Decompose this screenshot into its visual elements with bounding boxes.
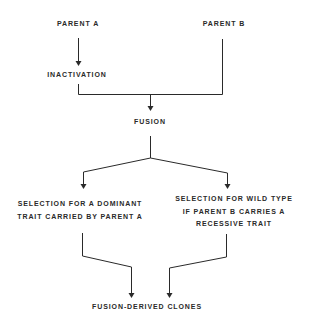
node-label-line: TRAIT CARRIED BY PARENT A (17, 211, 142, 224)
node-fusion-derived-clones: FUSION-DERIVED CLONES (92, 301, 202, 314)
arrowhead-icon (81, 184, 87, 189)
node-label: FUSION-DERIVED CLONES (92, 301, 202, 314)
node-parent-a: PARENT A (57, 18, 99, 31)
fusion-flow-diagram: PARENT A PARENT B INACTIVATION FUSION SE… (0, 0, 309, 322)
connector-lines (0, 0, 309, 322)
node-label-line: IF PARENT B CARRIES A (175, 206, 293, 219)
node-label: PARENT B (203, 18, 245, 31)
edge-inactivation-join (79, 39, 223, 95)
node-label-line: SELECTION FOR WILD TYPE (175, 193, 293, 206)
node-inactivation: INACTIVATION (47, 69, 107, 82)
node-parent-b: PARENT B (203, 18, 245, 31)
edge-fusion-to-dominant (84, 158, 151, 185)
arrowhead-icon (167, 293, 173, 298)
node-selection-wild-type: SELECTION FOR WILD TYPE IF PARENT B CARR… (175, 193, 293, 231)
node-fusion: FUSION (134, 116, 166, 129)
edge-fusion-to-wild (151, 158, 228, 185)
edge-wild-to-clones (170, 234, 227, 294)
node-label-line: RECESSIVE TRAIT (175, 218, 293, 231)
node-label-line: SELECTION FOR A DOMINANT (17, 198, 142, 211)
node-label: INACTIVATION (47, 69, 107, 82)
arrowhead-icon (225, 184, 231, 189)
arrowhead-icon (76, 61, 82, 66)
arrowhead-icon (129, 293, 135, 298)
edge-dominant-to-clones (83, 233, 132, 294)
node-selection-dominant: SELECTION FOR A DOMINANT TRAIT CARRIED B… (17, 198, 142, 223)
arrowhead-icon (148, 106, 154, 111)
node-label: PARENT A (57, 18, 99, 31)
node-label: FUSION (134, 116, 166, 129)
